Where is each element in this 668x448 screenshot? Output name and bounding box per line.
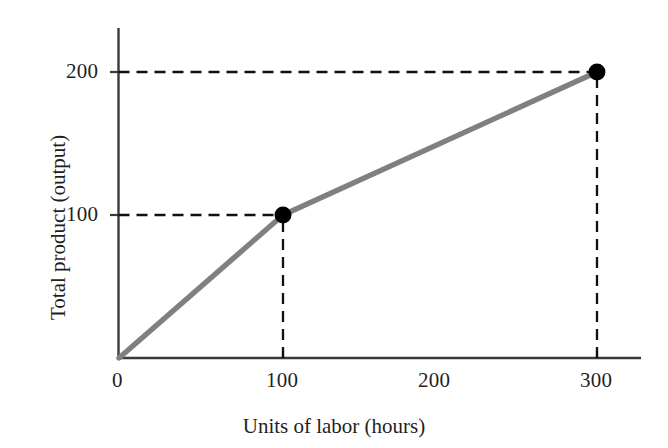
x-tick-label-200: 200 <box>418 370 450 391</box>
data-point-100-100 <box>275 207 292 224</box>
chart-figure: 200 100 0 100 200 300 Total product (out… <box>0 0 668 448</box>
data-point-300-200 <box>589 64 606 81</box>
x-tick-label-0: 0 <box>112 370 123 391</box>
x-tick-label-300: 300 <box>580 370 612 391</box>
y-tick-label-200: 200 <box>66 61 98 82</box>
x-axis-title: Units of labor (hours) <box>0 414 668 439</box>
total-product-line-chart <box>0 0 668 448</box>
x-tick-label-100: 100 <box>266 370 298 391</box>
chart-background <box>0 0 668 448</box>
y-axis-title: Total product (output) <box>46 135 71 320</box>
